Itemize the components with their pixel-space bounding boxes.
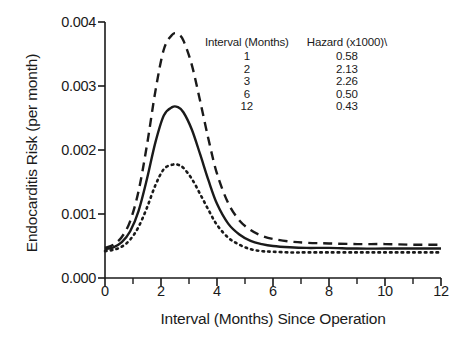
table-row: 60.50 <box>205 88 387 101</box>
table-row: 32.26 <box>205 75 387 88</box>
y-axis-ticks <box>98 22 105 278</box>
table-row: 22.13 <box>205 63 387 76</box>
column-header-interval: Interval (Months) <box>205 36 289 50</box>
x-tick-label: 12 <box>421 283 460 299</box>
cell-hazard: 0.50 <box>289 88 387 101</box>
cell-interval: 12 <box>205 100 289 113</box>
cell-hazard: 0.43 <box>289 100 387 113</box>
cell-hazard: 2.26 <box>289 75 387 88</box>
x-axis-title: Interval (Months) Since Operation <box>105 310 441 328</box>
y-tick-label: 0.003 <box>34 78 96 94</box>
y-tick-label: 0.004 <box>34 14 96 30</box>
curve-solid <box>105 106 441 249</box>
x-tick-label: 6 <box>253 283 293 299</box>
table-header-row: Interval (Months) Hazard (x1000)\ <box>205 36 387 50</box>
curve-dotted <box>105 164 441 252</box>
table-body: 10.5822.1332.2660.50120.43 <box>205 50 387 113</box>
x-tick-label: 8 <box>309 283 349 299</box>
x-tick-label: 10 <box>365 283 405 299</box>
cell-hazard: 0.58 <box>289 50 387 63</box>
cell-interval: 1 <box>205 50 289 63</box>
x-tick-label: 0 <box>85 283 125 299</box>
y-tick-label: 0.002 <box>34 142 96 158</box>
inset-hazard-table: Interval (Months) Hazard (x1000)\ 10.582… <box>205 36 387 113</box>
y-tick-label: 0.001 <box>34 206 96 222</box>
chart-figure: Endocarditis Risk (per month) 0.0000.001… <box>0 0 460 350</box>
cell-interval: 2 <box>205 63 289 76</box>
cell-interval: 3 <box>205 75 289 88</box>
table-row: 10.58 <box>205 50 387 63</box>
x-tick-label: 2 <box>141 283 181 299</box>
table-row: 120.43 <box>205 100 387 113</box>
column-header-hazard: Hazard (x1000)\ <box>289 36 387 50</box>
x-tick-label: 4 <box>197 283 237 299</box>
cell-interval: 6 <box>205 88 289 101</box>
cell-hazard: 2.13 <box>289 63 387 76</box>
